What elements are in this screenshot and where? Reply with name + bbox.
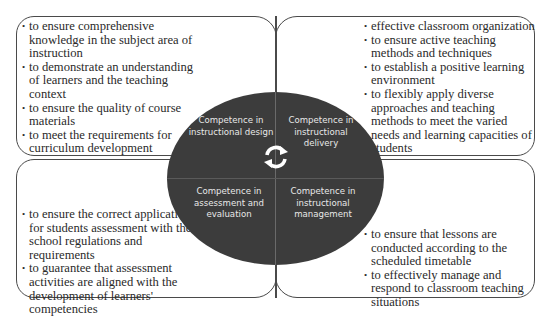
quadrant-label-assessment-evaluation: Competence in assessment and evaluation bbox=[186, 186, 272, 221]
quadrant-label-instructional-design: Competence in instructional design bbox=[188, 115, 274, 138]
list-item: to guarantee that assessment activities … bbox=[22, 262, 202, 316]
list-assessment-evaluation: to ensure the correct application for st… bbox=[22, 208, 202, 317]
circle-horizontal-divider bbox=[167, 178, 384, 179]
list-instructional-design: to ensure comprehensive knowledge in the… bbox=[22, 20, 202, 156]
list-item: to establish a positive learning environ… bbox=[364, 61, 536, 88]
quadrant-label-instructional-management: Competence in instructional management bbox=[280, 186, 366, 221]
cycle-arrows-icon bbox=[261, 142, 291, 172]
list-item: to ensure that lessons are conducted acc… bbox=[364, 228, 536, 269]
list-item: to ensure comprehensive knowledge in the… bbox=[22, 20, 202, 61]
list-item: to demonstrate an understanding of learn… bbox=[22, 61, 202, 102]
list-instructional-delivery: effective classroom organization to ensu… bbox=[364, 20, 536, 156]
list-item: to ensure the quality of course material… bbox=[22, 102, 202, 129]
list-instructional-management: to ensure that lessons are conducted acc… bbox=[364, 228, 536, 310]
list-item: to effectively manage and respond to cla… bbox=[364, 269, 536, 310]
list-item: to ensure the correct application for st… bbox=[22, 208, 202, 262]
list-item: effective classroom organization bbox=[364, 20, 536, 34]
list-item: to ensure active teaching methods and te… bbox=[364, 34, 536, 61]
list-item: to flexibly apply diverse approaches and… bbox=[364, 88, 536, 156]
